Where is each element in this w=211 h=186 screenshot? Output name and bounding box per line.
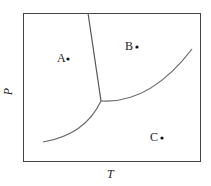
plot-frame — [24, 14, 201, 162]
point-b-label: B — [125, 39, 133, 54]
solid-liquid-curve — [88, 13, 101, 101]
y-axis-label: P — [1, 88, 16, 95]
point-c-dot — [160, 136, 163, 139]
point-c-label: C — [150, 130, 158, 145]
point-a-dot — [66, 57, 69, 60]
point-a-label: A — [57, 51, 66, 66]
liquid-gas-curve — [101, 49, 192, 101]
point-b-dot — [135, 45, 138, 48]
x-axis-label: T — [107, 167, 114, 182]
phase-diagram-plot — [0, 0, 211, 186]
solid-gas-curve — [43, 101, 101, 142]
